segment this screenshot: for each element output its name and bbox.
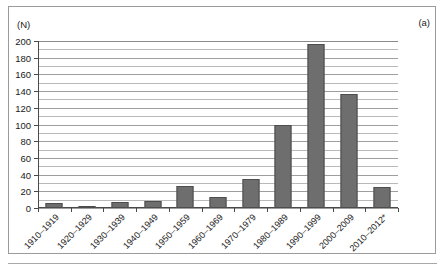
y-axis-tick-label: 140 bbox=[15, 86, 31, 97]
x-axis-tick-mark bbox=[398, 208, 399, 212]
bar-slot bbox=[365, 41, 398, 208]
y-axis-tick-label: 200 bbox=[15, 36, 31, 47]
bar-slot bbox=[333, 41, 366, 208]
bar[interactable] bbox=[144, 201, 161, 209]
bar[interactable] bbox=[177, 186, 194, 208]
bar[interactable] bbox=[209, 197, 226, 208]
panel-label: (a) bbox=[418, 17, 430, 28]
bar-slot bbox=[71, 41, 104, 208]
x-axis-labels: 1910–19191920–19291930–19391940–19491950… bbox=[38, 212, 398, 272]
bar[interactable] bbox=[308, 44, 325, 208]
bar-slot bbox=[234, 41, 267, 208]
y-axis-tick-label: 120 bbox=[15, 102, 31, 113]
bar-slot bbox=[300, 41, 333, 208]
y-axis-tick-label: 40 bbox=[20, 169, 31, 180]
y-axis-tick-label: 80 bbox=[20, 136, 31, 147]
bar-slot bbox=[267, 41, 300, 208]
bar-series bbox=[38, 41, 398, 208]
bar-slot bbox=[169, 41, 202, 208]
bar[interactable] bbox=[340, 94, 357, 208]
y-axis-tick-label: 100 bbox=[15, 119, 31, 130]
bar-slot bbox=[202, 41, 235, 208]
figure-panel-a: (N) (a) 020406080100120140160180200 1910… bbox=[0, 0, 446, 279]
bar-slot bbox=[38, 41, 71, 208]
y-axis-tick-label: 0 bbox=[26, 203, 31, 214]
y-axis-tick-label: 160 bbox=[15, 69, 31, 80]
y-axis-unit-label: (N) bbox=[17, 19, 30, 30]
y-axis-tick-label: 60 bbox=[20, 152, 31, 163]
bar-slot bbox=[103, 41, 136, 208]
bar[interactable] bbox=[373, 187, 390, 208]
bar[interactable] bbox=[275, 125, 292, 209]
bar[interactable] bbox=[242, 179, 259, 208]
bar-slot bbox=[136, 41, 169, 208]
y-axis: 020406080100120140160180200 bbox=[0, 41, 38, 209]
y-axis-tick-label: 180 bbox=[15, 52, 31, 63]
y-axis-tick-label: 20 bbox=[20, 186, 31, 197]
